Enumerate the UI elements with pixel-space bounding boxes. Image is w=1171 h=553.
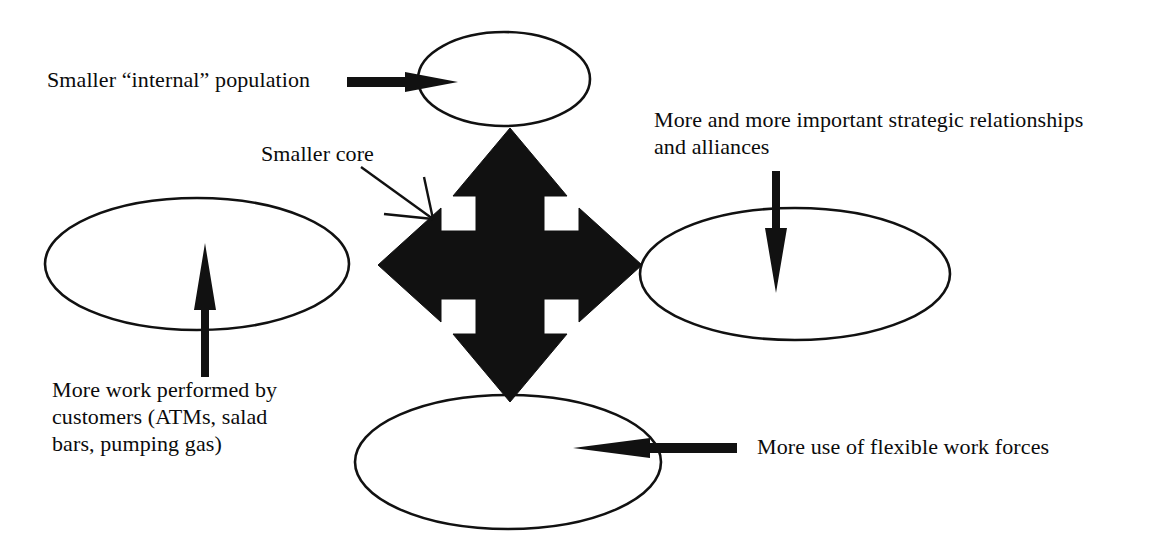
bottom-ellipse [355,395,661,529]
four-way-cross-arrow [378,128,642,402]
label-flexible-work-forces: More use of flexible work forces [757,433,1049,460]
label-strategic-relationships: More and more important strategic relati… [654,106,1083,160]
smaller-core-pointer [361,167,433,219]
right-ellipse [640,208,950,340]
label-smaller-internal-population: Smaller “internal” population [47,66,310,93]
label-more-work-line1: More work performed by [52,377,277,402]
label-strategic-relationships-line2: and alliances [654,134,770,159]
top-label-arrow [347,72,458,92]
label-strategic-relationships-line1: More and more important strategic relati… [654,107,1083,132]
top-ellipse [418,32,590,126]
label-more-work-line2: customers (ATMs, salad [52,404,267,429]
label-more-work-by-customers: More work performed bycustomers (ATMs, s… [52,376,277,457]
right-label-arrow [765,171,787,293]
left-ellipse [45,198,349,330]
label-smaller-core: Smaller core [261,140,374,167]
left-label-arrow [194,243,216,377]
bottom-label-arrow [573,438,737,458]
label-more-work-line3: bars, pumping gas) [52,431,222,456]
